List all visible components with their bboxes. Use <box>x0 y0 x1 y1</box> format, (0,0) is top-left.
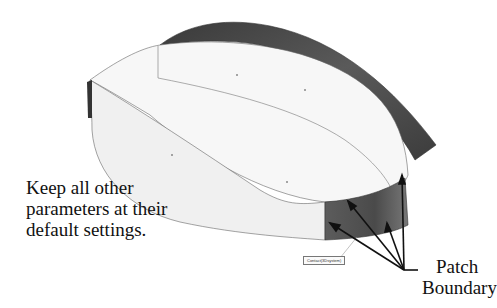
left-dark-edge <box>87 80 92 118</box>
note-line-3: default settings. <box>26 219 226 240</box>
note-line-1: Keep all other <box>26 177 226 198</box>
contact-tag-label: Contact(3Dsystem) <box>303 256 345 265</box>
callout-line-2: Boundary <box>422 277 497 298</box>
instruction-note: Keep all other parameters at their defau… <box>26 177 226 240</box>
callout-line-1: Patch <box>422 256 497 277</box>
patch-boundary-callout: Patch Boundary <box>422 256 497 298</box>
note-line-2: parameters at their <box>26 198 226 219</box>
